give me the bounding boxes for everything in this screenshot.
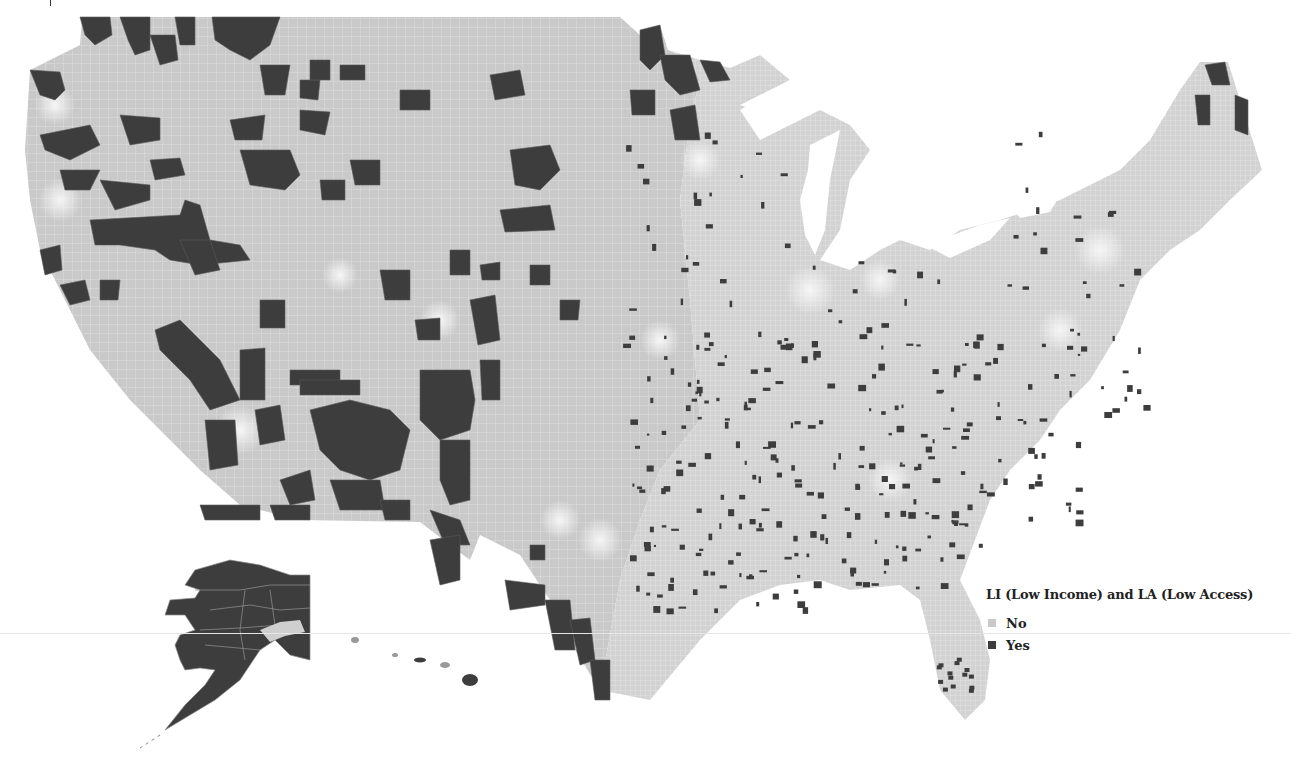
li-la-yes-tract bbox=[869, 408, 871, 411]
legend-item-no[interactable]: No bbox=[986, 612, 1253, 634]
li-la-yes-tract bbox=[812, 341, 818, 347]
li-la-yes-tract bbox=[963, 428, 970, 432]
li-la-yes-tract bbox=[736, 552, 741, 556]
li-la-yes-tract bbox=[889, 484, 895, 489]
li-la-yes-tract bbox=[820, 534, 824, 540]
li-la-yes-tract bbox=[993, 358, 998, 364]
li-la-yes-tract bbox=[653, 606, 660, 613]
li-la-yes-tract bbox=[1104, 412, 1112, 418]
li-la-yes-tract bbox=[998, 402, 1000, 407]
li-la-yes-tract bbox=[657, 595, 663, 598]
li-la-yes-tract bbox=[980, 484, 983, 490]
li-la-yes-tract bbox=[875, 540, 877, 544]
li-la-yes-tract bbox=[917, 272, 923, 279]
li-la-yes-tract bbox=[756, 528, 763, 531]
li-la-yes-tract bbox=[759, 476, 761, 483]
li-la-yes-tract bbox=[955, 661, 960, 665]
li-la-yes-tract bbox=[925, 512, 929, 514]
li-la-yes-tract bbox=[1028, 384, 1032, 390]
li-la-yes-tract bbox=[785, 557, 792, 560]
li-la-yes-tract bbox=[937, 279, 940, 284]
li-la-yes-tract bbox=[814, 581, 822, 588]
li-la-yes-tract bbox=[643, 179, 649, 185]
li-la-yes-tract bbox=[842, 559, 847, 564]
li-la-yes-tract bbox=[650, 527, 654, 533]
square-swatch-icon bbox=[988, 641, 996, 649]
li-la-yes-tract bbox=[794, 553, 798, 556]
li-la-yes-tract bbox=[881, 323, 889, 328]
li-la-yes-tract bbox=[847, 532, 852, 538]
li-la-yes-tract bbox=[1086, 294, 1090, 298]
li-la-yes-tract bbox=[1101, 386, 1104, 389]
li-la-yes-tract bbox=[860, 334, 868, 339]
li-la-yes-tract bbox=[926, 447, 932, 453]
legend: LI (Low Income) and LA (Low Access) No Y… bbox=[986, 587, 1253, 656]
li-la-yes-tract bbox=[797, 575, 800, 578]
li-la-yes-tract bbox=[638, 164, 645, 169]
li-la-yes-tract bbox=[705, 453, 711, 459]
li-la-yes-tract bbox=[1112, 408, 1120, 413]
li-la-yes-tract bbox=[1029, 517, 1034, 522]
square-swatch-icon bbox=[988, 619, 996, 627]
li-la-yes-tract bbox=[1134, 269, 1141, 276]
li-la-yes-tract bbox=[686, 255, 688, 259]
li-la-yes-tract bbox=[741, 175, 743, 178]
li-la-yes-tract bbox=[869, 463, 875, 469]
li-la-yes-tract bbox=[744, 405, 748, 411]
li-la-yes-tract bbox=[913, 499, 916, 504]
li-la-yes-tract bbox=[777, 340, 782, 344]
li-la-yes-tract bbox=[962, 673, 967, 677]
li-la-yes-tract bbox=[637, 487, 642, 490]
li-la-yes-tract bbox=[969, 686, 974, 690]
li-la-yes-tract bbox=[851, 571, 855, 577]
li-la-yes-tract bbox=[897, 426, 905, 433]
li-la-yes-tract bbox=[647, 466, 654, 472]
li-la-yes-tract bbox=[704, 348, 710, 351]
li-la-yes-tract bbox=[1029, 484, 1035, 489]
li-la-yes-tract bbox=[709, 342, 714, 346]
li-la-yes-tract bbox=[626, 145, 632, 152]
li-la-yes-tract bbox=[908, 512, 916, 519]
li-la-yes-tract bbox=[686, 405, 691, 411]
li-la-yes-tract bbox=[1003, 479, 1007, 486]
li-la-yes-tract bbox=[768, 441, 776, 448]
li-la-yes-tract bbox=[679, 607, 687, 609]
li-la-yes-tract bbox=[762, 508, 770, 511]
li-la-yes-tract bbox=[739, 524, 743, 530]
li-la-yes-tract bbox=[921, 434, 928, 438]
legend-item-yes[interactable]: Yes bbox=[986, 634, 1253, 656]
li-la-yes-tract bbox=[756, 602, 759, 606]
li-la-yes-tract bbox=[749, 574, 752, 577]
li-la-yes-tract bbox=[636, 586, 640, 592]
li-la-yes-tract bbox=[996, 416, 1001, 420]
li-la-yes-tract bbox=[839, 320, 843, 323]
li-la-yes-tract bbox=[901, 511, 907, 517]
li-la-yes-tract bbox=[902, 556, 907, 562]
alaska bbox=[165, 560, 310, 730]
li-la-yes-tract bbox=[639, 490, 645, 493]
li-la-yes-tract bbox=[985, 362, 991, 365]
li-la-yes-tract bbox=[720, 279, 727, 283]
li-la-yes-tract bbox=[676, 470, 683, 477]
li-la-yes-tract bbox=[697, 509, 702, 513]
li-la-yes-tract bbox=[961, 471, 965, 475]
li-la-yes-tract bbox=[855, 513, 860, 520]
li-la-yes-tract bbox=[968, 505, 973, 511]
li-la-yes-tract bbox=[1108, 212, 1114, 217]
li-la-yes-tract bbox=[807, 554, 810, 558]
li-la-yes-tract bbox=[1054, 374, 1059, 379]
li-la-yes-tract bbox=[896, 545, 899, 548]
li-la-yes-tract bbox=[771, 454, 777, 460]
li-la-yes-tract bbox=[1077, 333, 1080, 336]
li-la-yes-tract bbox=[661, 488, 666, 494]
li-la-yes-tract bbox=[676, 461, 682, 464]
li-la-yes-tract bbox=[730, 301, 733, 308]
li-la-yes-tract bbox=[681, 268, 688, 272]
li-la-yes-tract bbox=[696, 345, 699, 350]
li-la-yes-tract bbox=[1113, 336, 1115, 341]
li-la-yes-tract bbox=[962, 364, 966, 366]
li-la-yes-tract bbox=[671, 529, 679, 531]
li-la-yes-tract bbox=[662, 431, 667, 435]
li-la-yes-tract bbox=[845, 508, 850, 511]
li-la-yes-tract bbox=[1014, 235, 1019, 239]
